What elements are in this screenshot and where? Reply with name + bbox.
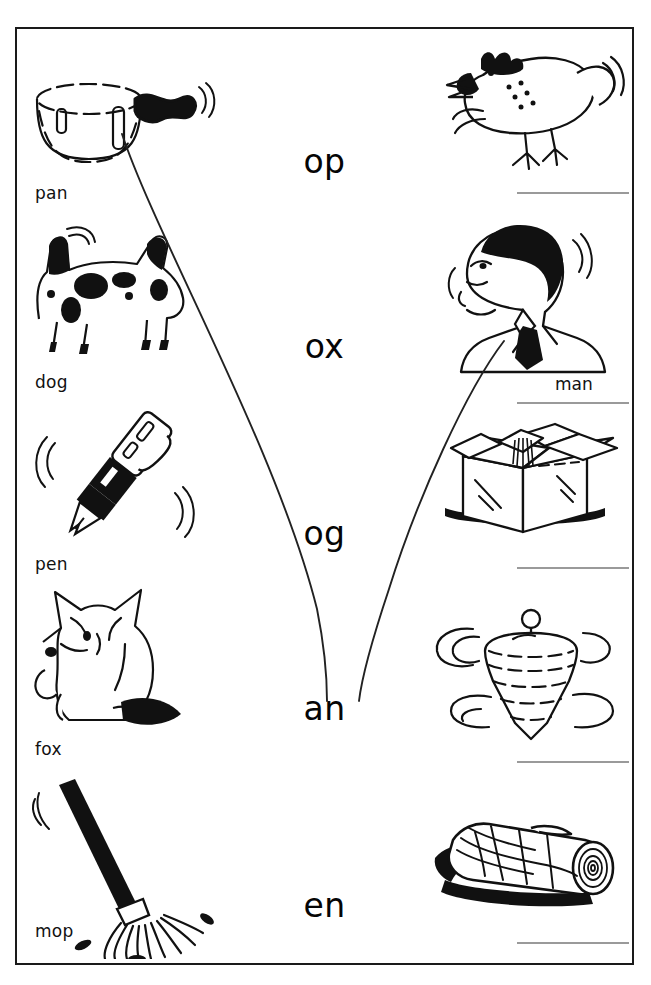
ending-og[interactable]: og xyxy=(222,514,427,553)
left-word-dog: dog xyxy=(35,372,68,392)
fox-icon xyxy=(17,574,222,739)
left-item-pan[interactable]: pan xyxy=(17,59,222,219)
right-item-hen[interactable] xyxy=(427,29,637,214)
top-icon xyxy=(427,589,637,749)
left-item-dog[interactable]: dog xyxy=(17,224,222,409)
answer-line-hen[interactable] xyxy=(517,192,629,194)
ending-op[interactable]: op xyxy=(222,142,427,181)
right-item-box[interactable] xyxy=(427,404,637,589)
right-item-man[interactable]: man xyxy=(427,214,637,404)
worksheet-page: pan xyxy=(0,0,651,985)
left-item-fox[interactable]: fox xyxy=(17,574,222,774)
right-item-log[interactable] xyxy=(427,784,637,967)
center-ending-column: op ox og an en xyxy=(222,29,427,967)
ending-en[interactable]: en xyxy=(222,886,427,925)
left-word-fox: fox xyxy=(35,739,62,759)
right-picture-column: man xyxy=(427,29,637,967)
worksheet-frame: pan xyxy=(15,27,634,965)
hen-icon xyxy=(427,29,637,179)
man-icon xyxy=(427,214,637,374)
left-word-pen: pen xyxy=(35,554,68,574)
left-item-mop[interactable]: mop xyxy=(17,769,222,959)
answer-line-top[interactable] xyxy=(517,761,629,763)
left-word-mop: mop xyxy=(35,921,74,941)
box-icon xyxy=(427,404,637,554)
saucepan-icon xyxy=(17,59,222,174)
dog-icon xyxy=(17,224,222,364)
right-word-man: man xyxy=(555,374,593,394)
answer-line-box[interactable] xyxy=(517,567,629,569)
left-item-pen[interactable]: pen xyxy=(17,399,222,584)
pen-icon xyxy=(17,399,222,549)
ending-ox[interactable]: ox xyxy=(222,327,427,366)
ending-an[interactable]: an xyxy=(222,689,427,728)
right-item-top[interactable] xyxy=(427,589,637,784)
answer-line-log[interactable] xyxy=(517,942,629,944)
left-picture-column: pan xyxy=(17,29,222,967)
left-word-pan: pan xyxy=(35,183,68,203)
log-icon xyxy=(427,784,637,934)
